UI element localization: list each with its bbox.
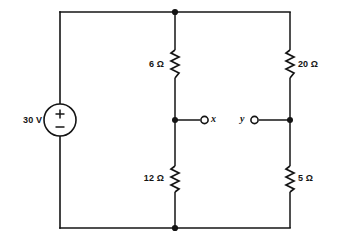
junction-node-middle-tap xyxy=(172,117,178,123)
resistor-label-20-ohm: 20 Ω xyxy=(298,60,341,69)
resistor-5-ohm-symbol xyxy=(286,166,294,192)
resistor-label-5-ohm: 5 Ω xyxy=(298,174,341,183)
junction-node-right-tap xyxy=(287,117,293,123)
junction-node-bottom-middle xyxy=(172,225,178,231)
resistor-6-ohm-symbol xyxy=(171,50,179,78)
junction-node-top-middle xyxy=(172,9,178,15)
circuit-diagram: 30 V 6 Ω 12 Ω 20 Ω 5 Ω x y xyxy=(0,0,341,243)
terminal-label-y: y xyxy=(240,114,244,124)
terminal-y-circle[interactable] xyxy=(251,116,258,123)
terminal-label-x: x xyxy=(211,114,216,124)
resistor-label-6-ohm: 6 Ω xyxy=(112,60,164,69)
voltage-source-circle xyxy=(44,104,76,136)
terminal-x-circle[interactable] xyxy=(201,116,208,123)
resistor-label-12-ohm: 12 Ω xyxy=(104,174,164,183)
circuit-schematic-canvas xyxy=(0,0,341,243)
resistor-20-ohm-symbol xyxy=(286,50,294,78)
resistor-12-ohm-symbol xyxy=(171,166,179,192)
voltage-source-label: 30 V xyxy=(8,116,42,125)
